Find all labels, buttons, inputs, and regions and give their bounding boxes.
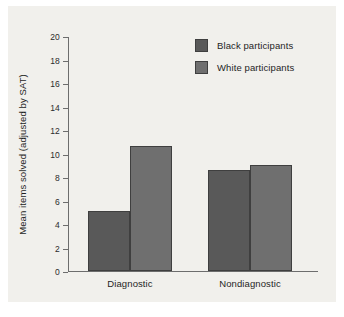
y-axis-tick	[63, 131, 68, 132]
y-axis-tick	[63, 108, 68, 109]
legend: Black participants White participants	[195, 39, 294, 83]
y-axis-tick-label: 2	[55, 244, 60, 254]
legend-swatch-white-participants	[195, 61, 208, 74]
bar-black-nondiagnostic	[208, 170, 250, 271]
legend-label-white-participants: White participants	[217, 62, 294, 73]
y-axis-tick	[63, 84, 68, 85]
y-axis-tick-label: 10	[50, 150, 60, 160]
y-axis-tick	[63, 155, 68, 156]
bar-white-diagnostic	[130, 146, 172, 271]
y-axis-tick-label: 14	[50, 103, 60, 113]
x-axis-label-nondiagnostic: Nondiagnostic	[208, 278, 292, 289]
y-axis-tick-label: 6	[55, 197, 60, 207]
y-axis-tick	[63, 272, 68, 273]
legend-item-black-participants: Black participants	[195, 39, 294, 52]
bar-white-nondiagnostic	[250, 165, 292, 271]
figure: Mean items solved (adjusted by SAT) 2018…	[0, 0, 344, 317]
y-axis-tick	[63, 249, 68, 250]
x-axis-label-diagnostic: Diagnostic	[88, 278, 172, 289]
y-axis-tick-label: 12	[50, 126, 60, 136]
y-axis-tick-label: 8	[55, 173, 60, 183]
x-axis-line	[68, 271, 318, 272]
legend-swatch-black-participants	[195, 39, 208, 52]
y-axis-tick	[63, 178, 68, 179]
y-axis-title: Mean items solved (adjusted by SAT)	[14, 37, 30, 272]
y-axis-tick	[63, 61, 68, 62]
y-axis-tick	[63, 37, 68, 38]
y-axis-tick-label: 16	[50, 79, 60, 89]
legend-item-white-participants: White participants	[195, 61, 294, 74]
y-axis-line	[68, 37, 69, 272]
y-axis-tick-label: 20	[50, 32, 60, 42]
y-axis-tick-label: 0	[55, 267, 60, 277]
y-axis-tick-label: 4	[55, 220, 60, 230]
bar-group-diagnostic: Diagnostic	[88, 37, 172, 271]
y-axis-tick	[63, 202, 68, 203]
y-axis-tick-label: 18	[50, 56, 60, 66]
legend-label-black-participants: Black participants	[217, 40, 293, 51]
bar-black-diagnostic	[88, 211, 130, 271]
y-axis-tick	[63, 225, 68, 226]
